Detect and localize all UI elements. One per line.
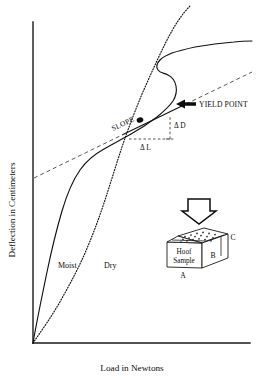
delta-d-label: Δ D xyxy=(174,121,186,130)
yield-point-label: YIELD POINT xyxy=(199,100,248,109)
specimen-title-line-1: Hoof xyxy=(177,248,192,256)
moist-curve-label: Moist xyxy=(58,261,77,270)
x-axis-label: Load in Newtons xyxy=(100,363,164,373)
dimension-label-a: A xyxy=(180,271,186,280)
moist-curve xyxy=(33,41,252,343)
load-deflection-chart: YIELD POINT SLOPE Δ D Δ L Moist Dry Load… xyxy=(0,0,265,380)
load-down-arrow-icon xyxy=(182,199,216,224)
axes-group xyxy=(33,22,250,343)
specimen-title-line-2: Sample xyxy=(173,257,195,265)
dimension-label-c: C xyxy=(230,233,235,242)
y-axis-label: Deflection in Centimeters xyxy=(7,162,17,257)
slope-construction-group xyxy=(34,72,252,178)
tangent-line-dashed-segment xyxy=(34,135,122,178)
figure-root: YIELD POINT SLOPE Δ D Δ L Moist Dry Load… xyxy=(0,0,265,380)
slope-point-marker xyxy=(136,116,144,123)
dimension-label-b: B xyxy=(210,251,215,260)
delta-triangle-group xyxy=(129,116,174,139)
dry-curve-label: Dry xyxy=(104,261,116,270)
dry-curve xyxy=(33,6,190,343)
delta-l-label: Δ L xyxy=(140,143,151,152)
specimen-inset-group: Hoof Sample A B C xyxy=(167,199,236,280)
